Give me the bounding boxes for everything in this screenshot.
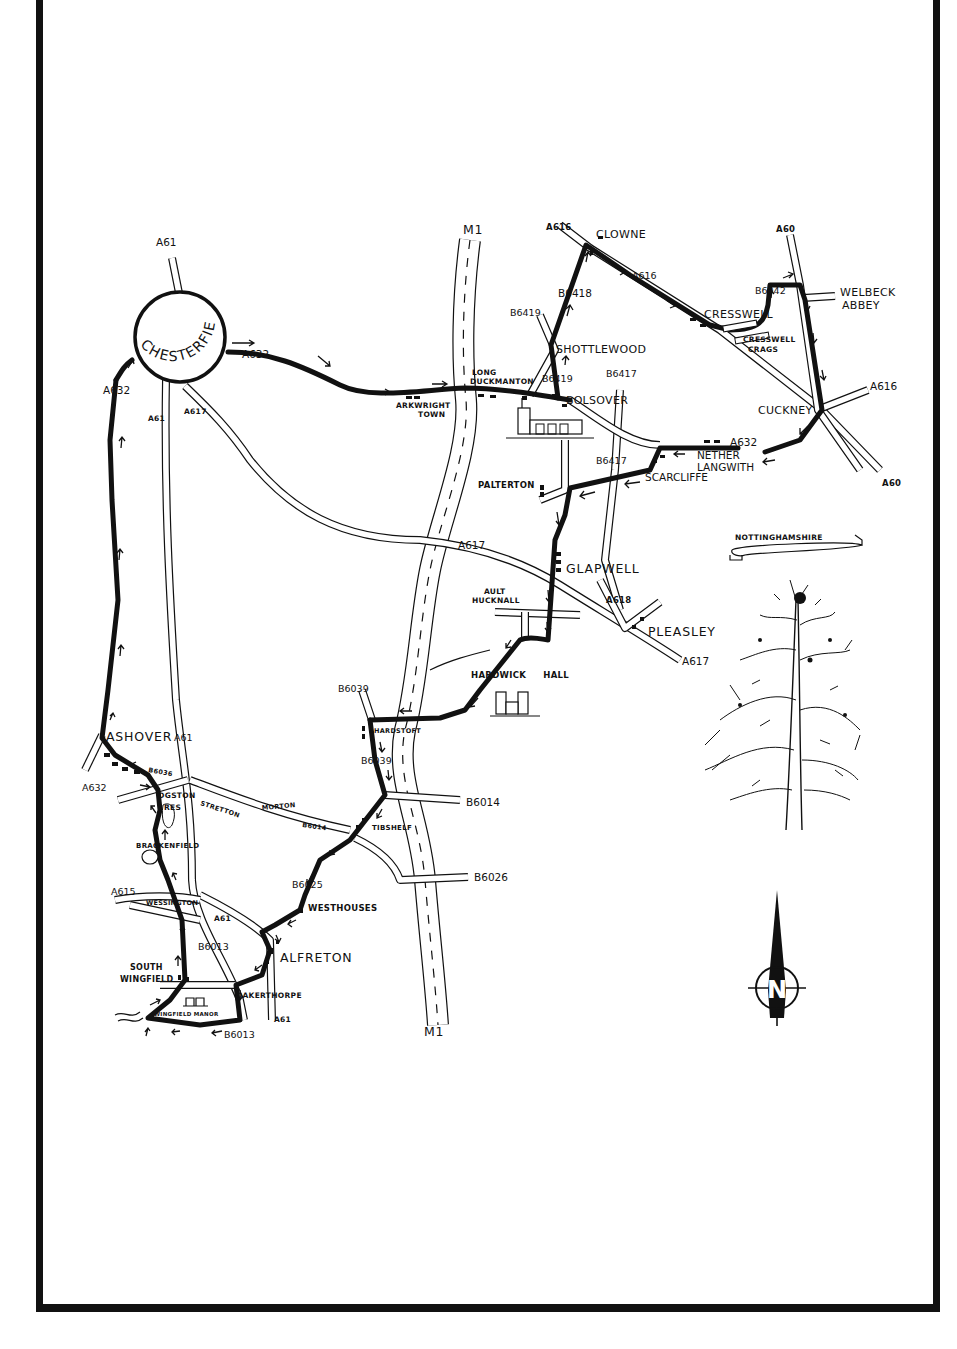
town-label-long-duckmanton-1: LONG [472,368,497,377]
road-label-b6417-a: B6417 [606,368,637,379]
town-label-cuckney: CUCKNEY [758,404,813,417]
road-label-b6039-b: B6039 [361,755,392,766]
road-label-b6419-b: B6419 [542,373,573,384]
town-label-scarcliffe: SCARCLIFFE [645,471,708,483]
town-label-welbeck-2: ABBEY [842,299,880,312]
town-label-cresswell-crags-1: CRESSWELL [743,335,796,344]
tree-illustration [705,580,860,830]
road-label-a60-bottom: A60 [882,478,901,488]
town-label-arkwright-2: TOWN [418,410,445,419]
town-label-morton: MORTON [261,801,295,812]
town-label-wessington: WESSINGTON [146,899,198,907]
road-label-m1-top: M1 [463,222,483,237]
town-label-clowne: CLOWNE [596,228,646,241]
town-label-ogston-2: RES [164,803,181,812]
town-label-south-wingfield-1: SOUTH [130,963,163,972]
road-label-a61-ashover: A61 [174,732,193,743]
town-label-brackenfield: BRACKENFIELD [136,842,199,850]
road-label-a61-chest: A61 [148,414,165,423]
road-label-a632-west: A632 [103,384,130,396]
m1-motorway [403,240,470,1025]
north-compass-icon: N [748,890,806,1026]
town-label-tibshelf: TIBSHELF [372,824,412,832]
road-label-m1-bottom: M1 [424,1024,444,1039]
town-label-arkwright-1: ARKWRIGHT [396,401,451,410]
road-label-a616-clowne: A616 [546,222,572,232]
town-label-ault-hucknall-2: HUCKNALL [472,596,520,605]
road-label-b6039-a: B6039 [338,683,369,694]
town-label-welbeck-1: WELBECK [840,286,896,299]
road-label-b6042: B6042 [755,285,786,296]
town-label-nether-langwith-1: NETHER [697,449,740,461]
road-label-a632-east: A632 [242,348,269,360]
road-label-b6419-a: B6419 [510,307,541,318]
town-label-oakerthorpe: OAKERTHORPE [236,991,302,1000]
road-label-b6026: B6026 [474,871,508,883]
road-label-a632-ashover: A632 [82,782,107,793]
town-label-pleasley: PLEASLEY [648,624,716,639]
road-label-a60-top: A60 [776,224,795,234]
town-label-shottlewood: SHOTTLEWOOD [556,343,646,356]
road-label-a617-chest: A617 [184,407,207,416]
town-label-stretton: STRETTON [199,799,240,819]
road-label-a616-cuckney: A616 [870,380,898,392]
road-label-b6418: B6418 [558,287,592,299]
wingfield-manor-icon [183,998,208,1006]
town-label-bolsover: BOLSOVER [566,394,628,407]
town-label-ault-hucknall-1: AULT [484,587,506,596]
chesterfield-circle: CHESTERFIELD [0,0,225,382]
road-label-a616-mid: A616 [632,270,657,281]
county-banner: NOTTINGHAMSHIRE [730,533,862,560]
road-label-a617-pleasley: A617 [682,655,709,667]
road-label-a61-alfreton: A61 [214,914,231,923]
county-label: NOTTINGHAMSHIRE [735,533,823,542]
road-label-a618: A618 [606,595,632,605]
road-label-a632-langwith: A632 [730,436,757,448]
town-label-alfreton: ALFRETON [280,950,353,965]
road-label-a61-south: A61 [274,1015,291,1024]
compass-letter: N [767,976,787,1004]
town-label-palterton: PALTERTON [478,480,535,490]
town-label-south-wingfield-2: WINGFIELD [120,975,173,984]
town-label-hardstoft: HARDSTOFT [374,727,421,735]
road-label-b6025: B6025 [292,879,323,890]
town-label-ogston-1: OGSTON [158,791,196,800]
town-label-glapwell: GLAPWELL [566,561,640,576]
town-label-ashover: ASHOVER [106,729,172,744]
town-label-hardwick-hall: HARDWICK HALL [471,670,569,680]
hardwick-hall-icon [490,692,540,716]
road-label-a617-mid: A617 [458,539,485,551]
road-label-b6013-b: B6013 [224,1029,255,1040]
town-label-cresswell: CRESSWELL [704,308,774,321]
road-label-a615: A615 [111,886,136,897]
road-label-b6013-a: B6013 [198,941,229,952]
town-label-westhouses: WESTHOUSES [308,903,377,913]
road-label-a61-top: A61 [156,236,177,248]
town-label-cresswell-crags-2: CRAGS [748,345,778,354]
route-map: CHESTERFIELD NOTTINGHAMSHIRE [0,0,957,1349]
town-label-wingfield-manor: WINGFIELD MANOR [154,1011,219,1017]
road-label-b6417-b: B6417 [596,455,627,466]
town-label-long-duckmanton-2: DUCKMANTON [470,377,534,386]
road-label-b6014-a: B6014 [466,796,500,808]
